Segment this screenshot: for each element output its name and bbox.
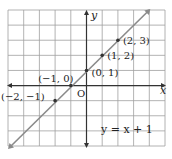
point-label: (2, 3) — [123, 35, 150, 46]
data-point — [100, 54, 104, 58]
data-point — [85, 69, 89, 73]
x-axis-label: x — [160, 84, 167, 97]
equation-label: y = x + 1 — [100, 123, 153, 136]
point-label: (−1, 0) — [38, 73, 73, 84]
y-axis-label: y — [90, 9, 98, 22]
y-axis-arrow-down-icon — [84, 143, 89, 148]
coordinate-plane-graph: (−2, −1)(−1, 0)(0, 1)(1, 2)(2, 3) x y O … — [0, 0, 172, 159]
data-point — [116, 38, 120, 42]
data-point — [69, 84, 73, 88]
y-axis-arrow-up-icon — [84, 10, 89, 15]
origin-label: O — [77, 88, 85, 99]
point-label: (1, 2) — [107, 50, 134, 61]
point-label: (0, 1) — [92, 67, 119, 78]
data-point — [53, 99, 57, 103]
point-label: (−2, −1) — [1, 91, 45, 102]
